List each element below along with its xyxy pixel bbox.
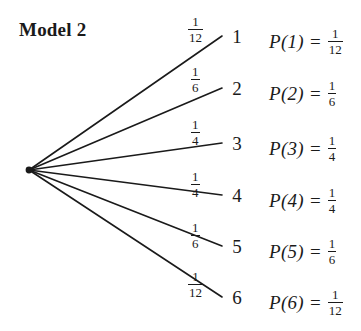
- equation-lhs-4: P(4): [269, 191, 304, 210]
- equation-lhs-1: P(1): [269, 32, 304, 51]
- branch-probability-1: 1 12: [188, 15, 203, 44]
- fraction-3: 1 4: [191, 118, 200, 147]
- branch-probability-4: 1 4: [191, 170, 200, 199]
- probability-equation-3: P(3) = 1 4: [269, 134, 336, 163]
- branch-probability-3: 1 4: [191, 118, 200, 147]
- equation-lhs-5: P(5): [269, 242, 304, 261]
- equation-operator-4: =: [310, 191, 321, 210]
- branch-probability-5: 1 6: [191, 221, 200, 250]
- equation-fraction-4: 1 4: [328, 186, 337, 215]
- outcome-label-4: 4: [229, 186, 245, 205]
- equation-operator-3: =: [310, 139, 321, 158]
- probability-equation-1: P(1) = 1 12: [269, 27, 343, 56]
- outcome-label-6: 6: [229, 288, 245, 307]
- equation-fraction-3: 1 4: [328, 134, 337, 163]
- probability-equation-2: P(2) = 1 6: [269, 79, 336, 108]
- probability-tree-figure: Model 2 1 12 1 6 1 4 1 4 1 6 1 12: [0, 0, 361, 331]
- equation-fraction-5: 1 6: [328, 237, 337, 266]
- equation-operator-5: =: [310, 242, 321, 261]
- outcome-label-3: 3: [229, 134, 245, 153]
- fraction-6: 1 12: [188, 270, 203, 299]
- tree-root-node: [26, 167, 33, 174]
- probability-equation-4: P(4) = 1 4: [269, 186, 336, 215]
- fraction-2: 1 6: [191, 65, 200, 94]
- equation-operator-1: =: [310, 32, 321, 51]
- fraction-4: 1 4: [191, 170, 200, 199]
- equation-operator-6: =: [310, 293, 321, 312]
- probability-equation-5: P(5) = 1 6: [269, 237, 336, 266]
- tree-branch-1: [29, 36, 222, 170]
- equation-lhs-3: P(3): [269, 139, 304, 158]
- equation-lhs-6: P(6): [269, 293, 304, 312]
- branch-probability-6: 1 12: [188, 270, 203, 299]
- probability-equation-6: P(6) = 1 12: [269, 288, 343, 317]
- equation-fraction-1: 1 12: [328, 27, 343, 56]
- outcome-label-1: 1: [229, 27, 245, 46]
- branch-probability-2: 1 6: [191, 65, 200, 94]
- equation-lhs-2: P(2): [269, 84, 304, 103]
- equation-operator-2: =: [310, 84, 321, 103]
- outcome-label-2: 2: [229, 79, 245, 98]
- outcome-label-5: 5: [229, 237, 245, 256]
- page-title: Model 2: [19, 19, 86, 41]
- fraction-5: 1 6: [191, 221, 200, 250]
- equation-fraction-2: 1 6: [328, 79, 337, 108]
- fraction-1: 1 12: [188, 15, 203, 44]
- equation-fraction-6: 1 12: [328, 288, 343, 317]
